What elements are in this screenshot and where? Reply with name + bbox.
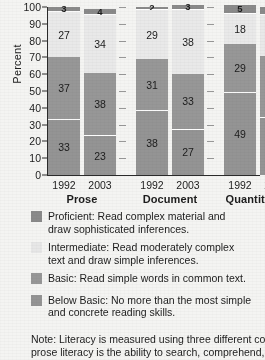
legend-item-basic[interactable]: Basic: Read simple words in common text.	[31, 272, 265, 285]
tick-guide-dash	[119, 91, 126, 92]
chart-legend: Proficient: Read complex material anddra…	[31, 210, 265, 325]
tick-guide-dash	[207, 108, 214, 109]
tick-guide-dash	[207, 24, 214, 25]
segment-value-label: 49	[224, 129, 256, 140]
tick-guide-dash	[207, 41, 214, 42]
tick-guide-dash	[119, 24, 126, 25]
segment-value-label: 38	[136, 138, 168, 149]
legend-label-basic: Basic: Read simple words in common text.	[48, 272, 246, 285]
tick-guide-dash	[119, 108, 126, 109]
legend-swatch-basic	[31, 273, 42, 284]
tick-guide-dash	[207, 57, 214, 58]
tick-guide-dash	[207, 158, 214, 159]
segment-value-label: 33	[48, 142, 80, 153]
x-tick-label-year: 2003	[260, 179, 265, 191]
legend-swatch-belowbasic	[31, 295, 42, 306]
segment-intermediate: 24	[260, 15, 265, 55]
x-group-document: 19922003Document	[136, 179, 204, 205]
bar-quantitative-1992[interactable]: 5182949	[224, 5, 256, 175]
segment-value-label: 29	[224, 63, 256, 74]
bar-prose-1992[interactable]: 3273733	[48, 7, 80, 175]
tick-guide-dash	[207, 141, 214, 142]
segment-belowbasic: 23	[84, 136, 116, 175]
segment-value-label: 27	[172, 147, 204, 158]
segment-proficient: 4	[84, 9, 116, 16]
legend-item-proficient[interactable]: Proficient: Read complex material anddra…	[31, 210, 265, 235]
tick-guide-dash	[119, 74, 126, 75]
segment-value-label: 33	[172, 96, 204, 107]
bar-document-1992[interactable]: 2293138	[136, 7, 168, 175]
stacked-bar-chart: Percent 0102030405060708090100 327373343…	[0, 0, 265, 200]
x-tick-label-year: 2003	[172, 179, 204, 191]
segment-basic: 37	[260, 56, 265, 118]
legend-item-belowbasic[interactable]: Below Basic: No more than the most simpl…	[31, 294, 265, 319]
segment-value-label: 5	[224, 4, 256, 14]
plot-area: 3273733434382322931383383327518294952437…	[48, 7, 260, 175]
segment-intermediate: 29	[136, 10, 168, 59]
x-tick-label-year: 1992	[48, 179, 80, 191]
x-group-label: Quantitative	[224, 193, 265, 205]
segment-value-label: 38	[84, 99, 116, 110]
tick-guide-dash	[207, 91, 214, 92]
bar-group-document: 22931383383327	[136, 7, 204, 175]
segment-basic: 33	[172, 74, 204, 129]
legend-swatch-proficient	[31, 211, 42, 222]
segment-intermediate: 38	[172, 10, 204, 74]
bar-quantitative-2003[interactable]: 5243734	[260, 7, 265, 175]
y-tick-label-70: 70	[29, 52, 41, 63]
y-tick-label-60: 60	[29, 69, 41, 80]
chart-page: Percent 0102030405060708090100 327373343…	[0, 0, 265, 360]
segment-proficient: 5	[260, 7, 265, 15]
segment-value-label: 23	[84, 150, 116, 161]
x-group-label: Prose	[48, 193, 116, 205]
segment-proficient: 5	[224, 5, 256, 13]
y-tick-label-80: 80	[29, 35, 41, 46]
note-line-1: Note: Literacy is measured using three d…	[31, 333, 265, 345]
segment-value-label: 31	[136, 79, 168, 90]
x-group-quantitative: 19922003Quantitative	[224, 179, 265, 205]
segment-value-label: 34	[260, 141, 265, 152]
segment-value-label: 37	[260, 81, 265, 92]
segment-belowbasic: 38	[136, 111, 168, 175]
bar-prose-2003[interactable]: 4343823	[84, 9, 116, 175]
x-group-label: Document	[136, 193, 204, 205]
y-tick-label-30: 30	[29, 119, 41, 130]
segment-value-label: 27	[48, 29, 80, 40]
tick-guide-dash	[119, 158, 126, 159]
segment-belowbasic: 34	[260, 118, 265, 175]
segment-basic: 37	[48, 57, 80, 119]
tick-guide-dash	[119, 41, 126, 42]
segment-intermediate: 34	[84, 15, 116, 72]
x-axis-labels: 19922003Prose19922003Document19922003Qua…	[48, 179, 260, 209]
note-line-2: prose literacy is the ability to search,…	[31, 346, 264, 358]
segment-value-label: 29	[136, 29, 168, 40]
chart-note: Note: Literacy is measured using three d…	[31, 333, 265, 359]
legend-label-belowbasic: Below Basic: No more than the most simpl…	[48, 294, 251, 319]
legend-item-intermediate[interactable]: Intermediate: Read moderately complextex…	[31, 241, 265, 266]
x-tick-label-year: 1992	[136, 179, 168, 191]
segment-intermediate: 18	[224, 14, 256, 44]
segment-belowbasic: 27	[172, 130, 204, 175]
bar-group-prose: 32737334343823	[48, 7, 116, 175]
x-axis-line	[47, 175, 260, 176]
x-tick-label-year: 1992	[224, 179, 256, 191]
y-tick-label-40: 40	[29, 103, 41, 114]
bar-document-2003[interactable]: 3383327	[172, 5, 204, 175]
legend-label-proficient: Proficient: Read complex material anddra…	[48, 210, 225, 235]
x-group-prose: 19922003Prose	[48, 179, 116, 205]
y-tick-label-0: 0	[35, 170, 41, 181]
tick-guide-dash	[207, 74, 214, 75]
y-tick-label-20: 20	[29, 136, 41, 147]
bar-group-quantitative: 51829495243734	[224, 7, 265, 175]
segment-belowbasic: 49	[224, 93, 256, 175]
segment-value-label: 34	[84, 39, 116, 50]
segment-basic: 31	[136, 59, 168, 111]
y-tick-label-100: 100	[23, 2, 41, 13]
y-tick-label-10: 10	[29, 153, 41, 164]
segment-belowbasic: 33	[48, 120, 80, 175]
segment-basic: 38	[84, 73, 116, 137]
segment-value-label: 5	[260, 6, 265, 16]
segment-value-label: 18	[224, 24, 256, 35]
segment-value-label: 38	[172, 37, 204, 48]
segment-intermediate: 27	[48, 12, 80, 57]
